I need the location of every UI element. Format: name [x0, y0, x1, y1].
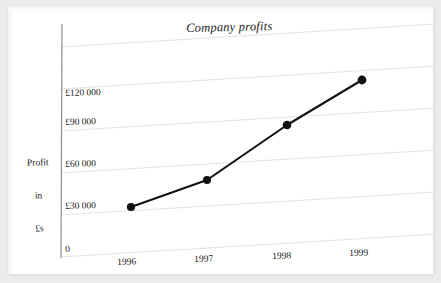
chart-title: Company profits [186, 19, 273, 36]
x-tick-label-1997: 1997 [194, 254, 213, 264]
y-axis-label: Profit in £s [14, 135, 63, 257]
x-tick-label-1999: 1999 [349, 248, 368, 258]
data-point-1997 [203, 176, 211, 184]
data-markers [127, 76, 367, 212]
y-tick-label-0: 0 [65, 244, 70, 254]
gridlines [61, 24, 436, 257]
y-axis-label-line-3: £s [16, 223, 62, 235]
y-tick-label-30000: £30 000 [65, 200, 96, 211]
gridline-60000 [61, 150, 436, 173]
gridline-90000 [61, 108, 436, 131]
line-chart: Company profits Profit in £s 0 £30 000 £… [0, 0, 441, 283]
data-point-1996 [127, 203, 135, 211]
y-tick-label-60000: £60 000 [65, 158, 96, 169]
y-axis-label-line-1: Profit [15, 157, 61, 169]
gridline-0 [61, 234, 436, 257]
gridline-30000 [61, 192, 436, 215]
x-tick-label-1996: 1996 [117, 257, 136, 267]
x-tick-label-1998: 1998 [272, 251, 291, 261]
y-tick-label-120000: £120 000 [65, 87, 101, 98]
gridline-120000 [61, 66, 436, 89]
chart-canvas [0, 0, 441, 283]
y-tick-label-90000: £90 000 [65, 116, 96, 127]
data-point-1998 [283, 121, 292, 130]
data-point-1999 [358, 76, 367, 85]
y-axis-label-line-2: in [15, 190, 61, 202]
data-line [131, 80, 362, 207]
